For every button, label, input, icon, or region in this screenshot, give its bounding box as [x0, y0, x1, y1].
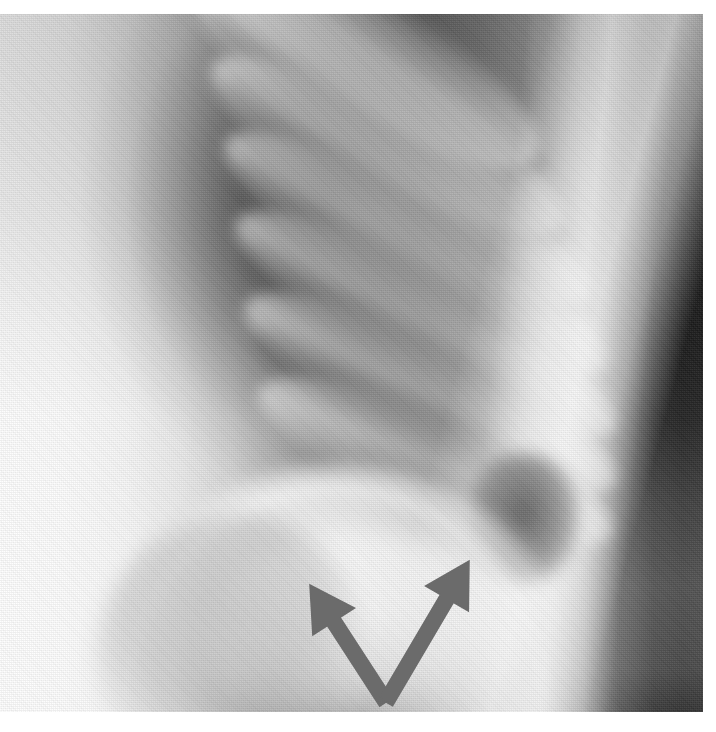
- hemidiaphragm-dome: [110, 466, 570, 712]
- rib-6: [223, 257, 637, 530]
- interspace-1: [175, 14, 565, 199]
- rib-4: [199, 94, 632, 413]
- interspace-3: [205, 53, 615, 346]
- print-margin-right: [703, 0, 716, 732]
- rib-1: [151, 14, 569, 209]
- film-halftone-texture: [0, 14, 703, 712]
- posterior-bright-band: [0, 14, 703, 712]
- interspace-5: [228, 216, 632, 475]
- interspace-4: [217, 134, 629, 412]
- rib-5: [211, 174, 638, 475]
- liver-shadow: [95, 514, 365, 712]
- radiograph-plate: [0, 14, 703, 712]
- lung-field-basal: [0, 14, 703, 712]
- film-vertical-shading: [0, 14, 703, 712]
- chest-wall-soft-tissue: [0, 14, 703, 712]
- rib-3: [184, 18, 615, 344]
- print-margin-top: [0, 0, 716, 14]
- rib-7: [240, 344, 630, 579]
- costophrenic-recess: [470, 454, 580, 584]
- hemidiaphragm-edge: [120, 484, 550, 712]
- radiograph-figure: [0, 0, 716, 732]
- film-grain-texture: [0, 14, 703, 712]
- subdiaphragmatic-region: [200, 534, 530, 712]
- print-margin-bottom: [0, 712, 716, 732]
- lung-field-lower: [0, 14, 703, 712]
- lung-field: [0, 14, 703, 712]
- interspace-2: [191, 14, 590, 273]
- film-base-tone: [0, 14, 703, 712]
- paraspinal-bright-band: [0, 14, 703, 712]
- rib-2: [169, 14, 591, 274]
- interspace-6: [241, 303, 630, 526]
